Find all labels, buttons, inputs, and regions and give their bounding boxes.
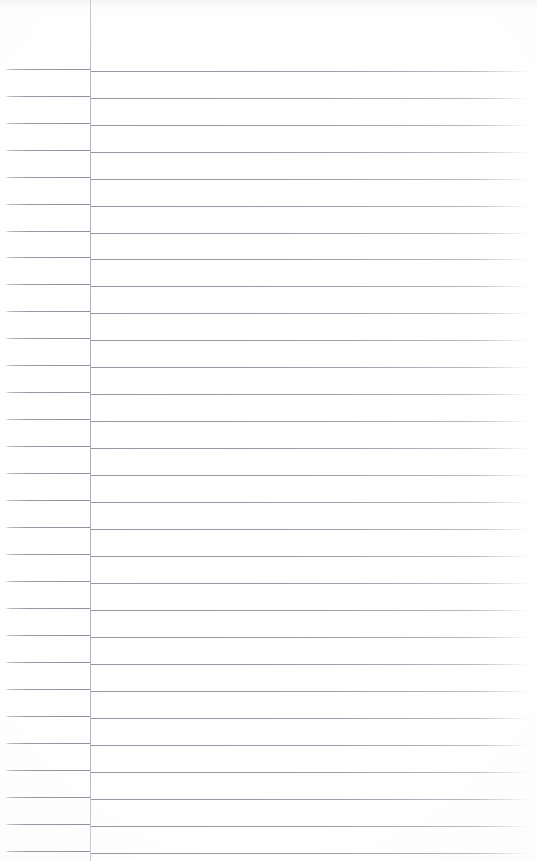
ruled-line-left-segment (5, 662, 90, 663)
ruled-line-left-segment (5, 824, 90, 825)
ruled-line-left-segment (5, 392, 90, 393)
ruled-line-left-segment (5, 689, 90, 690)
ruled-line-left-segment (5, 608, 90, 609)
ruled-line-left-segment (5, 311, 90, 312)
ruled-line-left-segment (5, 473, 90, 474)
ruled-line-left-segment (5, 123, 90, 124)
ruled-line-left-segment (5, 69, 90, 70)
ruled-line-left-segment (5, 419, 90, 420)
ruled-line-left-segment (5, 797, 90, 798)
ruled-line-left-segment (5, 338, 90, 339)
ruled-line-left-segment (5, 500, 90, 501)
ruled-line-left-segment (5, 527, 90, 528)
ruled-line-left-segment (5, 150, 90, 151)
ruled-line-left-segment (5, 581, 90, 582)
ruled-line-left-segment (5, 177, 90, 178)
ruled-line-left-segment (5, 96, 90, 97)
ruled-line-left-segment (5, 716, 90, 717)
ruled-line-left-segment (5, 635, 90, 636)
ruled-line-left-segment (5, 770, 90, 771)
ruled-line-left-segment (5, 365, 90, 366)
ruled-line-left-segment (5, 743, 90, 744)
ruled-line-left-segment (5, 446, 90, 447)
ruled-line-left-segment (5, 851, 90, 852)
writing-area[interactable] (91, 0, 537, 861)
notebook-page (0, 0, 537, 861)
ruled-line-left-segment (5, 284, 90, 285)
ruled-line-left-segment (5, 554, 90, 555)
ruled-line-left-segment (5, 204, 90, 205)
ruled-line-left-segment (5, 231, 90, 232)
ruled-line-left-segment (5, 257, 90, 258)
